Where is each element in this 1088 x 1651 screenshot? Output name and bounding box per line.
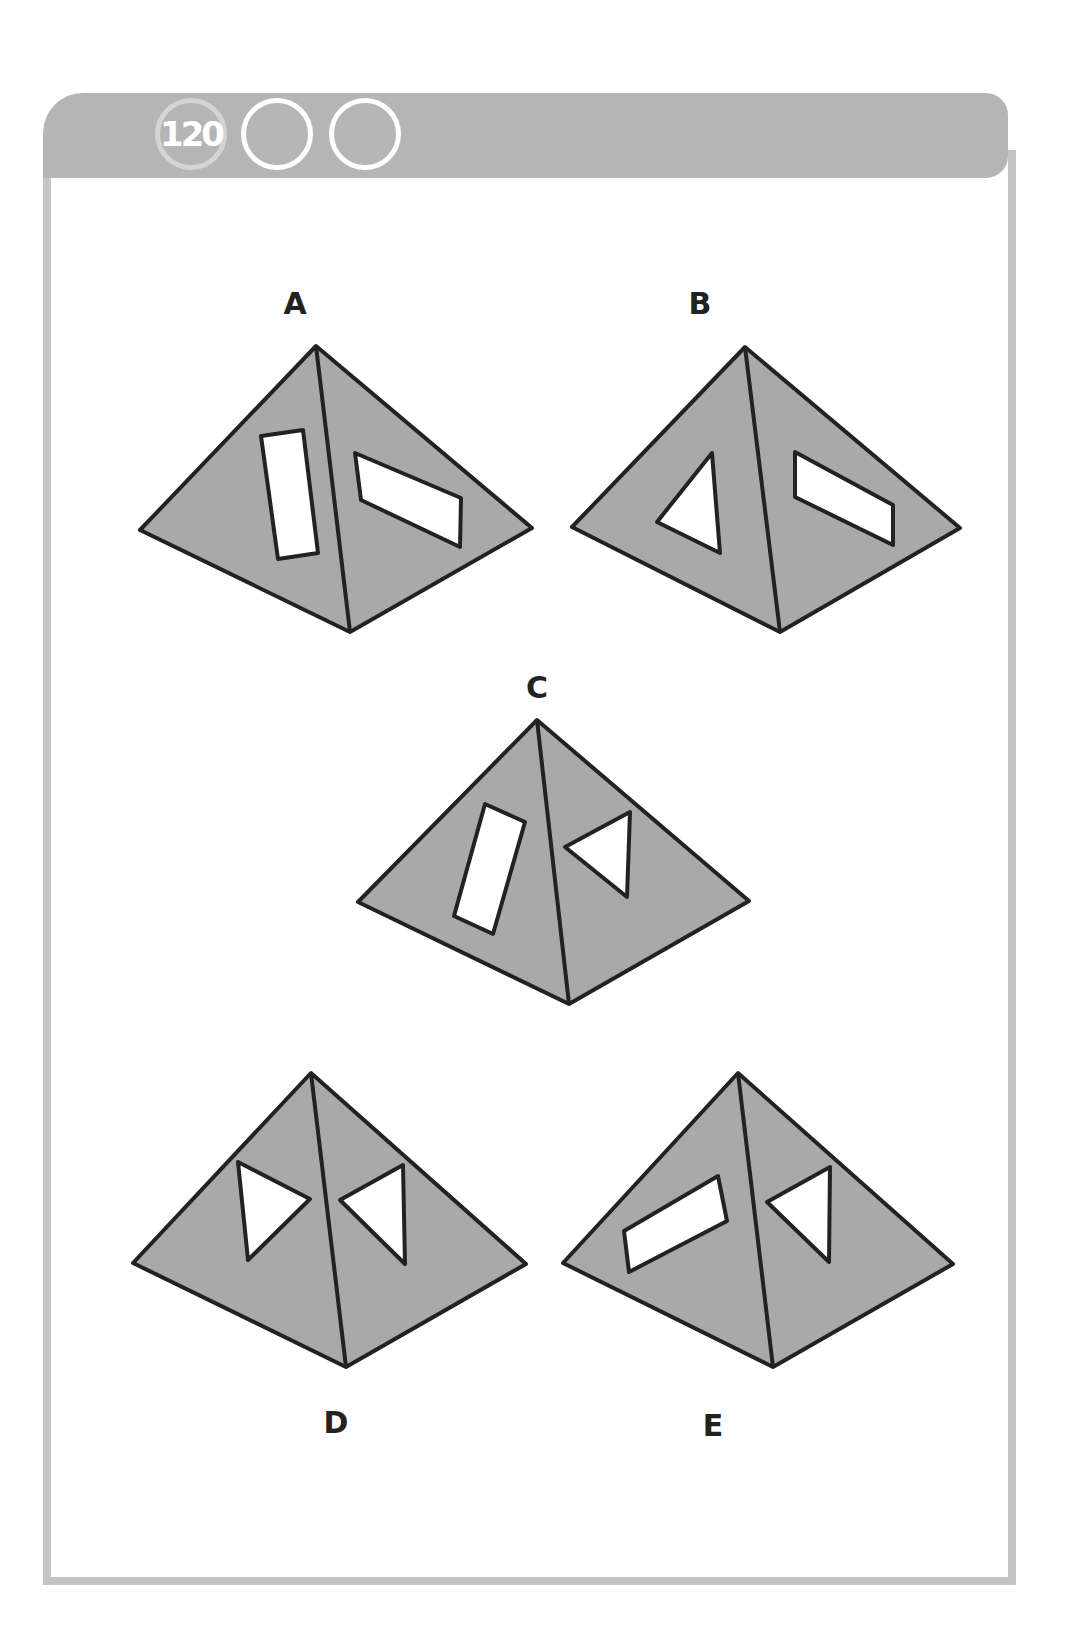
pyramid-c[interactable] [358, 720, 749, 1004]
pyramid-e[interactable] [563, 1073, 953, 1367]
pyramid-b[interactable] [572, 347, 960, 632]
pyramid-a[interactable] [140, 346, 532, 632]
pyramid-d[interactable] [133, 1073, 526, 1367]
pyramid-figures [0, 0, 1088, 1651]
